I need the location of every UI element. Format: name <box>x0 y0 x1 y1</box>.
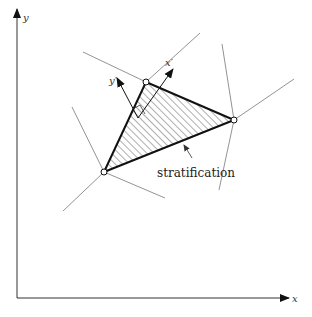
y-prime-label: y′ <box>108 75 118 86</box>
stratification-annotation: stratification <box>157 145 235 180</box>
stratification-arrow <box>184 145 192 158</box>
vertex-a-marker <box>101 169 107 175</box>
line-through-a-upper <box>72 107 104 172</box>
line-through-a-right <box>104 172 165 198</box>
line-through-a-lower <box>63 172 104 211</box>
vertex-b-marker <box>143 79 149 85</box>
stratification-label: stratification <box>157 166 235 180</box>
y-prime-axis <box>117 78 138 118</box>
line-through-c-right <box>234 79 294 120</box>
line-through-c-upper <box>222 44 234 120</box>
vertex-c-marker <box>231 117 237 123</box>
global-axes <box>17 9 289 298</box>
diagram-canvas: y x x′ y′ stratification <box>0 0 312 317</box>
line-through-b-right <box>146 33 200 82</box>
stratification-diagram: y x x′ y′ stratification <box>0 0 312 317</box>
y-axis-label: y <box>22 12 29 23</box>
x-prime-label: x′ <box>165 57 174 68</box>
x-axis-label: x <box>292 293 298 304</box>
hatched-triangle <box>104 82 234 172</box>
